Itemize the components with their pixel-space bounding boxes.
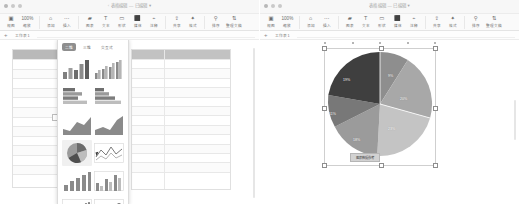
resize-handle-top-left[interactable]: [322, 46, 327, 51]
toolbar-item-shape[interactable]: ▭ 形状: [374, 15, 390, 28]
toolbar-item-zoom[interactable]: 100% 缩放: [19, 15, 36, 28]
gallery-item-bubble-chart[interactable]: [94, 196, 124, 204]
formula-bar[interactable]: [37, 33, 255, 38]
toolbar-item-format[interactable]: ✦ 格式: [185, 15, 201, 28]
toolbar-right: ▣ 视图 100% 缩放 ⌂ 添加 ⋯ 插入: [260, 14, 519, 31]
window-title-text: 表格编辑 — 已编辑 ▾: [369, 3, 410, 8]
toolbar-label-shape: 形状: [378, 23, 386, 28]
media-icon: ⬛: [394, 15, 401, 22]
add-sheet-button[interactable]: +: [4, 32, 8, 38]
view-icon: ▣: [268, 15, 273, 22]
shape-icon: ▭: [119, 15, 124, 22]
toolbar-label-add: 添加: [307, 23, 315, 28]
table-row[interactable]: [132, 162, 230, 171]
toolbar-item-comment[interactable]: ⌁ 注释: [406, 15, 422, 28]
toolbar-item-comment[interactable]: ⌁ 注释: [146, 15, 162, 28]
add-category-icon: ⌂: [309, 15, 312, 22]
toolbar-item-format[interactable]: ✦ 格式: [445, 15, 461, 28]
toolbar-item-media[interactable]: ⬛ 媒体: [390, 15, 406, 28]
gallery-item-pie-chart[interactable]: [62, 140, 92, 166]
toolbar-item-share[interactable]: ⇪ 共享: [429, 15, 445, 28]
selection-mark-dot: [407, 42, 409, 44]
toolbar-item-add-category[interactable]: ⌂ 添加: [43, 15, 59, 28]
toolbar-item-zoom[interactable]: 100% 缩放: [279, 15, 296, 28]
gallery-item-column-mixed-chart[interactable]: [94, 168, 124, 194]
table-row[interactable]: [132, 134, 230, 143]
gallery-item-stacked-bar-chart-2[interactable]: [94, 84, 124, 110]
gallery-item-area-chart[interactable]: [62, 112, 92, 138]
table-row[interactable]: [132, 106, 230, 115]
table-row[interactable]: [132, 87, 230, 96]
gallery-item-area-chart-2[interactable]: [94, 112, 124, 138]
resize-handle-top-center[interactable]: [379, 46, 384, 51]
comment-icon: ⌁: [412, 15, 415, 22]
table-row[interactable]: [132, 68, 230, 77]
table-row[interactable]: [132, 78, 230, 87]
chart-icon: ▰: [348, 15, 352, 22]
resize-handle-top-right[interactable]: [433, 46, 438, 51]
resize-handle-bottom-center[interactable]: [379, 163, 384, 168]
toolbar-item-insert[interactable]: ⋯ 插入: [59, 15, 75, 28]
resize-handle-bottom-left[interactable]: [322, 163, 327, 168]
sheetbar-left: + 工作表 1: [0, 31, 259, 40]
toolbar-item-text[interactable]: T 文本: [98, 15, 114, 28]
toolbar-label-view: 视图: [267, 23, 275, 28]
pie-chart-graphic[interactable]: 9% 20% 23% 18% 11% 19%: [326, 50, 434, 158]
gallery-item-column-chart[interactable]: [62, 56, 92, 82]
gallery-item-column-3d-chart[interactable]: [62, 168, 92, 194]
gallery-item-scatter-chart[interactable]: [62, 196, 92, 204]
toolbar-item-text[interactable]: T 文本: [358, 15, 374, 28]
comment-icon: ⌁: [152, 15, 155, 22]
table-row[interactable]: [132, 125, 230, 134]
table-row[interactable]: [132, 59, 230, 68]
tab-2d[interactable]: 二维: [62, 43, 76, 51]
toolbar-item-organize[interactable]: ⇅ 整理文稿: [484, 15, 505, 28]
canvas-left: 二维 三维 交互式: [0, 40, 259, 204]
table-row[interactable]: [132, 97, 230, 106]
add-sheet-button[interactable]: +: [264, 32, 268, 38]
gallery-item-grouped-column-chart[interactable]: [94, 56, 124, 82]
toolbar-item-sort[interactable]: ⚲ 排序: [468, 15, 484, 28]
table-row[interactable]: [132, 115, 230, 124]
spreadsheet-table-secondary[interactable]: [131, 49, 231, 190]
gallery-item-stacked-bar-chart[interactable]: [62, 84, 92, 110]
toolbar-item-shape[interactable]: ▭ 形状: [114, 15, 130, 28]
toolbar-item-add-category[interactable]: ⌂ 添加: [303, 15, 319, 28]
toolbar-item-view[interactable]: ▣ 视图: [263, 15, 279, 28]
toolbar-item-chart[interactable]: ▰ 图表: [82, 15, 98, 28]
toolbar-item-media[interactable]: ⬛ 媒体: [130, 15, 146, 28]
pie-svg: [326, 50, 434, 158]
pie-chart-object[interactable]: 9% 20% 23% 18% 11% 19% 图表数据参考: [324, 48, 436, 166]
toolbar-item-insert[interactable]: ⋯ 插入: [319, 15, 335, 28]
formula-bar[interactable]: [297, 33, 515, 38]
toolbar-item-chart[interactable]: ▰ 图表: [342, 15, 358, 28]
toolbar-item-organize[interactable]: ⇅ 整理文稿: [224, 15, 245, 28]
text-icon: T: [364, 15, 367, 22]
toolbar-label-insert: 插入: [63, 23, 71, 28]
toolbar-item-sort[interactable]: ⚲ 排序: [208, 15, 224, 28]
table-row[interactable]: [132, 153, 230, 162]
sheet-tab[interactable]: 工作表 1: [272, 33, 293, 38]
vertical-scrollbar[interactable]: [514, 100, 516, 140]
table-row[interactable]: [132, 172, 230, 181]
resize-handle-bottom-right[interactable]: [433, 163, 438, 168]
chart-legend[interactable]: 图表数据参考: [350, 153, 380, 162]
toolbar-item-share[interactable]: ⇪ 共享: [169, 15, 185, 28]
toolbar-label-organize: 整理文稿: [226, 23, 242, 28]
sheet-tab[interactable]: 工作表 1: [12, 33, 33, 38]
toolbar-label-format: 格式: [189, 23, 197, 28]
format-icon: ✦: [190, 15, 195, 22]
toolbar-item-view[interactable]: ▣ 视图: [3, 15, 19, 28]
toolbar-divider: [78, 16, 79, 29]
vertical-scrollbar[interactable]: [253, 48, 255, 198]
table-row[interactable]: [132, 144, 230, 153]
format-icon: ✦: [450, 15, 455, 22]
toolbar-label-chart: 图表: [86, 23, 94, 28]
toolbar-group-view: ▣ 视图 100% 缩放: [3, 15, 36, 28]
toolbar-group-insert: ⌂ 添加 ⋯ 插入: [43, 15, 75, 28]
resize-handle-middle-right[interactable]: [433, 106, 438, 111]
table-column-divider: [164, 50, 165, 189]
resize-handle-middle-left[interactable]: [322, 106, 327, 111]
tab-interactive[interactable]: 交互式: [98, 43, 116, 51]
tab-3d[interactable]: 三维: [80, 43, 94, 51]
